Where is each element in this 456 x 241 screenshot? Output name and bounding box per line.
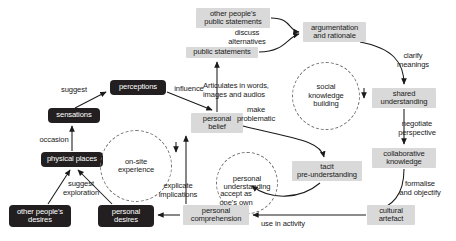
node-sensations[interactable]: sensations	[48, 108, 100, 123]
edge-label-occasion: occasion	[36, 136, 72, 145]
node-perceptions[interactable]: perceptions	[110, 80, 166, 95]
node-argumentation-and-rationale[interactable]: argumentation and rationale	[303, 22, 366, 42]
node-public-statements[interactable]: public statements	[186, 47, 258, 58]
edge-label-formalise-and-objectify: formalise and objectify	[389, 180, 451, 197]
node-label: personal desires	[112, 208, 140, 225]
node-label: sensations	[56, 111, 91, 120]
node-label: public statements	[193, 48, 250, 57]
node-tacit-pre-understanding[interactable]: tacit pre-understanding	[292, 161, 362, 181]
node-label: collaborative knowledge	[383, 150, 424, 167]
edge-label-negotiate-perspective: negotiate perspective	[390, 120, 444, 137]
edge-label-discuss-alternatives: discuss alternatives	[216, 29, 278, 46]
node-label: social knowledge building	[308, 83, 343, 109]
edge-label-suggest-exploration: suggest exploration	[54, 180, 108, 197]
edge-label-explicate-implications: explicate implications	[150, 182, 206, 199]
diagram-canvas: other people's public statements public …	[0, 0, 456, 241]
node-label: cultural artefact	[379, 207, 404, 224]
node-personal-comprehension[interactable]: personal comprehension	[183, 205, 249, 225]
node-other-peoples-public-statements[interactable]: other people's public statements	[196, 8, 270, 28]
node-social-knowledge-building[interactable]: social knowledge building	[292, 62, 360, 130]
node-label: other people's public statements	[204, 10, 261, 27]
node-label: shared understanding	[381, 90, 428, 107]
node-collaborative-knowledge[interactable]: collaborative knowledge	[372, 148, 436, 168]
node-other-peoples-desires[interactable]: other people's desires	[9, 205, 71, 227]
edge-label-make-problematic: make problematic	[228, 106, 284, 123]
node-personal-desires[interactable]: personal desires	[98, 205, 154, 227]
node-label: personal belief	[203, 115, 231, 132]
node-cultural-artefact[interactable]: cultural artefact	[367, 205, 415, 225]
node-label: tacit pre-understanding	[297, 163, 357, 180]
edge-label-influence: influence	[170, 85, 208, 94]
edge-label-suggest: suggest	[58, 86, 90, 95]
node-label: argumentation and rationale	[311, 24, 358, 41]
node-label: on-site experience	[118, 158, 154, 175]
edge-label-clarify-meanings: clarify meanings	[390, 52, 436, 69]
edge-label-use-in-activity: use in activity	[254, 220, 312, 229]
edge-label-articulates-in-words: Articulates in words, images and audios	[203, 82, 293, 99]
node-label: perceptions	[119, 83, 157, 92]
node-shared-understanding[interactable]: shared understanding	[372, 88, 436, 108]
node-label: personal comprehension	[191, 207, 242, 224]
node-label: other people's desires	[17, 208, 63, 225]
node-label: physical places	[47, 155, 97, 164]
node-physical-places[interactable]: physical places	[41, 152, 103, 167]
edge-label-accept-as-ones-own: accept as one's own	[211, 190, 261, 207]
